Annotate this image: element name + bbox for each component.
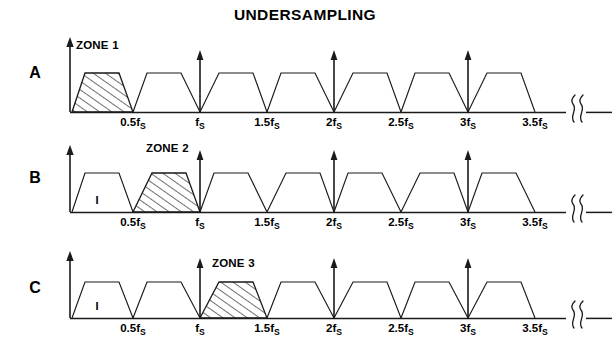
panel-b-band-label: I [95, 194, 98, 206]
panel-c-y-axis-arrowhead [66, 251, 73, 261]
panel-c-impulse-fs [197, 258, 204, 318]
panel-b-tick-6: 3.5fS [522, 216, 548, 231]
panel-a-tick-6: 3.5fS [522, 116, 548, 131]
panel-a-impulse-3fs [465, 50, 472, 112]
panel-a: A [29, 37, 612, 131]
panel-a-tick-4: 2.5fS [388, 116, 414, 131]
panel-a-axis-break-icon [572, 95, 583, 122]
panel-b-tick-5: 3fS [460, 216, 476, 231]
panel-a-tick-3: 2fS [326, 116, 342, 131]
panel-c-tick-2: 1.5fS [254, 322, 280, 337]
panel-a-band-7 [468, 73, 535, 112]
panel-a-band-4 [267, 73, 334, 112]
panel-a-band-3 [200, 73, 267, 112]
panel-b-band-3 [200, 173, 267, 212]
panel-b-band-1 [72, 173, 133, 212]
panel-c-band-4 [267, 282, 334, 318]
panel-c-band-6 [401, 282, 468, 318]
panel-b-band-5 [334, 173, 401, 212]
panel-b-tick-2: 1.5fS [254, 216, 280, 231]
panel-a-tick-0: 0.5fS [120, 116, 146, 131]
panel-b-impulse-fs [197, 150, 204, 212]
panel-b-y-axis-arrowhead [66, 145, 73, 155]
panel-a-letter: A [29, 64, 41, 81]
panel-b-impulse-3fs [465, 150, 472, 212]
panel-c-zone-label: ZONE 3 [212, 257, 255, 269]
panel-b-axis-break-icon [572, 195, 583, 222]
panel-b-zone-label: ZONE 2 [146, 142, 189, 154]
panel-c-impulse-2fs [331, 258, 338, 318]
panel-c-band-7 [468, 282, 535, 318]
panel-c-tick-6: 3.5fS [522, 322, 548, 337]
panel-c-axis-break-icon [572, 301, 583, 328]
panel-c-band-label: I [95, 300, 98, 312]
panel-a-tick-2: 1.5fS [254, 116, 280, 131]
figure-title: UNDERSAMPLING [234, 6, 376, 23]
panel-c-tick-3: 2fS [326, 322, 342, 337]
panel-a-band-5 [334, 73, 401, 112]
panel-b-band-4 [267, 173, 334, 212]
panel-a-y-axis-arrowhead [66, 37, 73, 47]
panel-a-hatched-band [72, 73, 133, 112]
panel-b-letter: B [29, 169, 41, 186]
panel-c-letter: C [29, 279, 41, 296]
panel-c-tick-5: 3fS [460, 322, 476, 337]
undersampling-diagram: UNDERSAMPLING A [0, 0, 613, 357]
panel-b: B [29, 142, 612, 231]
panel-b-tick-3: 2fS [326, 216, 342, 231]
panel-b-tick-0: 0.5fS [120, 216, 146, 231]
panel-c-band-2 [133, 282, 200, 318]
panel-a-zone-label: ZONE 1 [76, 39, 119, 51]
undersampling-figure: UNDERSAMPLING A [0, 0, 613, 357]
panel-a-impulse-fs [197, 50, 204, 112]
panel-c-band-1 [72, 282, 133, 318]
panel-c: C [29, 251, 612, 337]
panel-c-band-5 [334, 282, 401, 318]
panel-c-tick-1: fS [195, 322, 205, 337]
panel-c-hatched-band [200, 282, 267, 318]
panel-a-band-6 [401, 73, 468, 112]
panel-c-tick-4: 2.5fS [388, 322, 414, 337]
panel-a-impulse-2fs [331, 50, 338, 112]
panel-b-band-6 [401, 173, 468, 212]
panel-c-impulse-3fs [465, 258, 472, 318]
panel-a-tick-1: fS [195, 116, 205, 131]
panel-b-band-7 [468, 173, 535, 212]
panel-a-tick-5: 3fS [460, 116, 476, 131]
panel-b-hatched-band [133, 173, 200, 212]
panel-b-impulse-2fs [331, 150, 338, 212]
panel-b-tick-1: fS [195, 216, 205, 231]
panel-b-tick-4: 2.5fS [388, 216, 414, 231]
panel-c-tick-0: 0.5fS [120, 322, 146, 337]
panel-a-band-2 [133, 73, 200, 112]
